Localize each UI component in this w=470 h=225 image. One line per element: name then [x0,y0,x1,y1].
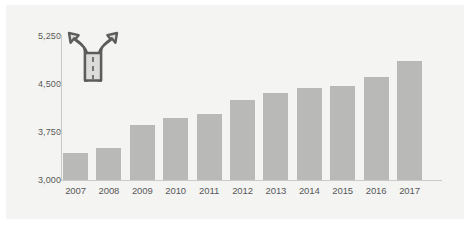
x-tick-label-2011: 2011 [191,185,227,196]
x-tick-label-2009: 2009 [124,185,160,196]
chart-figure: 5,250 4,500 3,750 3,000 2007200820092010… [0,0,470,225]
x-tick-label-2015: 2015 [325,185,361,196]
x-tick-label-2010: 2010 [158,185,194,196]
x-tick-label-2017: 2017 [392,185,428,196]
x-tick-label-2013: 2013 [258,185,294,196]
bar-chart-plot-area: 5,250 4,500 3,750 3,000 2007200820092010… [0,0,470,225]
fork-road-icon [66,28,120,83]
x-tick-label-2014: 2014 [291,185,327,196]
x-tick-label-2007: 2007 [58,185,94,196]
x-tick-label-2008: 2008 [91,185,127,196]
x-tick-label-2012: 2012 [225,185,261,196]
x-tick-label-2016: 2016 [358,185,394,196]
